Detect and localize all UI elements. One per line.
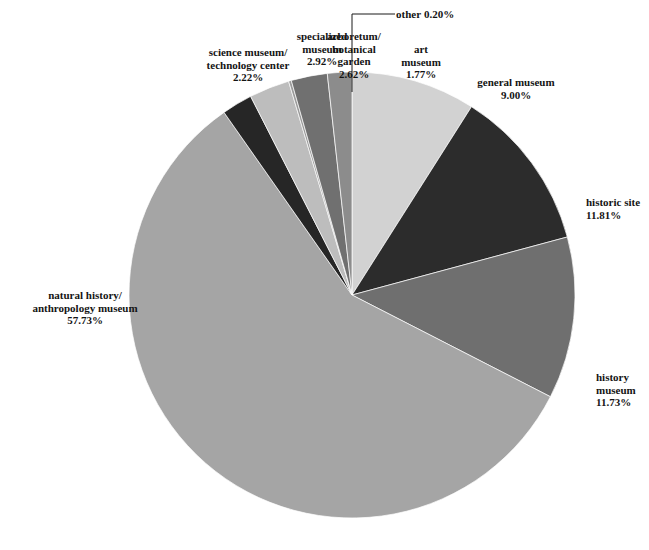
slice-label-line2: botanical (332, 43, 375, 55)
slice-label-line1: other (396, 8, 421, 20)
slice-value: 0.20% (421, 8, 454, 20)
slice-value: 2.62% (317, 68, 391, 81)
slice-label-line2: technology center (207, 59, 290, 71)
slice-label-line2: museum (401, 56, 441, 68)
slice-label-line1: historic site (586, 196, 640, 208)
slice-label-line3: garden (338, 55, 371, 67)
slice-label-natural-history-anthropology-museum: natural history/ anthropology museum 57.… (10, 289, 160, 327)
slice-label-line1: history (596, 371, 629, 383)
slice-value: 2.22% (180, 71, 316, 84)
slice-label-line1: art (414, 43, 428, 55)
slice-label-line1: arboretum/ (327, 30, 381, 42)
slice-label-line1: general museum (477, 76, 554, 88)
slice-label-line1: science museum/ (209, 46, 288, 58)
slice-label-historic-site: historic site 11.81% (586, 196, 649, 221)
slice-label-general-museum: general museum 9.00% (455, 76, 577, 101)
pie-chart: natural history/ anthropology museum 57.… (0, 0, 649, 550)
slice-label-art-museum: art museum 1.77% (388, 43, 454, 81)
slice-value: 11.73% (596, 396, 649, 409)
slice-label-line2: museum (596, 384, 636, 396)
slice-label-history-museum: history museum 11.73% (596, 371, 649, 409)
slice-label-arboretum-botanical-garden: arboretum/ botanical garden 2.62% (317, 30, 391, 80)
slice-label-line1: natural history/ (48, 289, 122, 301)
slice-value: 57.73% (10, 314, 160, 327)
slice-value: 11.81% (586, 209, 649, 222)
slice-label-line2: anthropology museum (32, 302, 137, 314)
slice-label-other: other0.20% (396, 8, 506, 21)
slice-value: 9.00% (455, 89, 577, 102)
slice-value: 1.77% (388, 68, 454, 81)
